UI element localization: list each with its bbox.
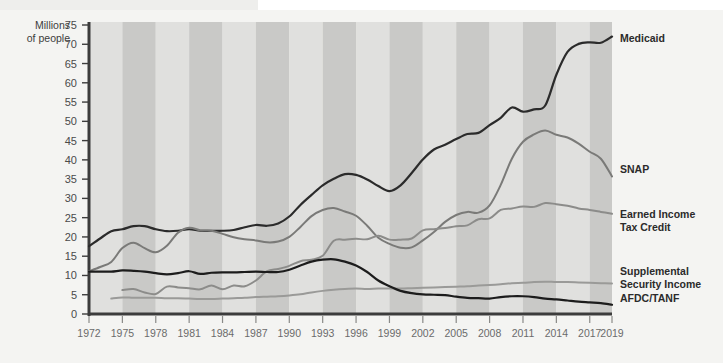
x-tick-label: 1999 <box>378 327 402 339</box>
series-label: Earned Income <box>620 208 695 220</box>
y-tick-label: 5 <box>71 289 77 301</box>
line-chart: 051015202530354045505560657075 197219751… <box>0 0 723 363</box>
y-tick-label: 0 <box>71 308 77 320</box>
x-tick-label: 2019 <box>600 327 624 339</box>
x-tick-label: 2008 <box>478 327 502 339</box>
y-tick-label: 35 <box>65 173 77 185</box>
series-label: Security Income <box>620 278 701 290</box>
series-label: Supplemental <box>620 265 689 277</box>
y-tick-label: 30 <box>65 192 77 204</box>
background-band <box>223 22 256 314</box>
x-tick-label: 2014 <box>545 327 569 339</box>
y-tick-label: 40 <box>65 154 77 166</box>
background-band <box>523 22 556 314</box>
background-band <box>490 22 523 314</box>
background-band <box>356 22 389 314</box>
x-tick-label: 2002 <box>411 327 435 339</box>
background-band <box>389 22 422 314</box>
y-tick-label: 55 <box>65 96 77 108</box>
x-tick-label: 1993 <box>311 327 335 339</box>
x-tick-label: 1990 <box>278 327 302 339</box>
y-tick-label: 60 <box>65 77 77 89</box>
y-axis-ticks: 051015202530354045505560657075 <box>65 19 88 320</box>
x-tick-label: 2011 <box>512 327 535 339</box>
y-axis-title-line2: of people <box>27 32 70 44</box>
y-tick-label: 10 <box>65 269 77 281</box>
y-tick-label: 45 <box>65 135 77 147</box>
x-tick-label: 1984 <box>211 327 235 339</box>
background-band <box>323 22 356 314</box>
y-tick-label: 15 <box>65 250 77 262</box>
x-tick-label: 1987 <box>244 327 268 339</box>
x-tick-label: 1975 <box>111 327 135 339</box>
y-axis-title-line1: Millions <box>35 19 70 31</box>
series-label: SNAP <box>620 163 649 175</box>
background-band <box>156 22 189 314</box>
series-labels: MedicaidSNAPEarned IncomeTax CreditSuppl… <box>620 32 701 303</box>
x-tick-label: 1996 <box>344 327 368 339</box>
x-axis-ticks: 1972197519781981198419871990199319961999… <box>77 316 624 339</box>
background-bands <box>89 22 612 314</box>
background-band <box>189 22 222 314</box>
series-label: Tax Credit <box>620 221 671 233</box>
y-tick-label: 65 <box>65 58 77 70</box>
background-band <box>289 22 322 314</box>
background-band <box>423 22 456 314</box>
x-tick-label: 1972 <box>77 327 101 339</box>
x-tick-label: 1981 <box>177 327 201 339</box>
x-tick-label: 1978 <box>144 327 168 339</box>
series-label: AFDC/TANF <box>620 292 680 304</box>
y-tick-label: 50 <box>65 115 77 127</box>
y-tick-label: 20 <box>65 231 77 243</box>
background-band <box>590 22 612 314</box>
x-tick-label: 2017 <box>578 327 602 339</box>
series-label: Medicaid <box>620 32 665 44</box>
x-tick-label: 2005 <box>445 327 469 339</box>
background-band <box>456 22 489 314</box>
y-tick-label: 25 <box>65 212 77 224</box>
